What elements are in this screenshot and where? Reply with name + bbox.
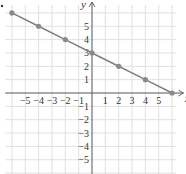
data-point (143, 77, 148, 82)
x-tick-label: 4 (143, 95, 148, 106)
data-point (36, 24, 41, 29)
x-tick-label: 2 (116, 95, 121, 106)
x-axis-label: x (184, 92, 186, 104)
y-tick-label: −1 (78, 101, 89, 112)
x-tick-label: 3 (130, 95, 135, 106)
data-point (89, 50, 94, 55)
x-tick-label: 1 (103, 95, 108, 106)
bullet-marker (1, 5, 3, 7)
y-tick-label: −4 (78, 141, 89, 152)
y-tick-label: −5 (78, 154, 89, 165)
x-tick-label: −2 (60, 95, 71, 106)
coordinate-plane: xy−5−4−3−2−11234554321−1−2−3−4−5 (0, 0, 186, 174)
y-axis-label: y (80, 0, 86, 10)
y-tick-label: 4 (84, 34, 89, 45)
y-tick-label: −2 (78, 114, 89, 125)
data-point (170, 90, 175, 95)
y-tick-label: −3 (78, 128, 89, 139)
y-tick-label: 2 (84, 61, 89, 72)
data-point (116, 64, 121, 69)
data-point (63, 37, 68, 42)
x-tick-label: −5 (20, 95, 31, 106)
y-tick-label: 5 (84, 21, 89, 32)
x-tick-label: 5 (156, 95, 161, 106)
y-tick-label: 1 (84, 74, 89, 85)
x-tick-label: −3 (47, 95, 58, 106)
data-point (9, 10, 14, 15)
x-tick-label: −4 (33, 95, 44, 106)
